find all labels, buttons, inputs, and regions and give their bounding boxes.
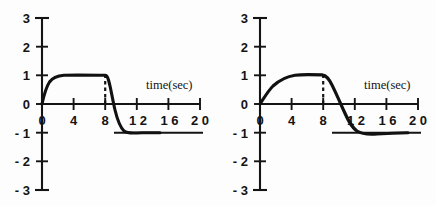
y-tick-label-neg3: - 3 bbox=[15, 183, 30, 198]
x-tick-label-12: 1 2 bbox=[129, 113, 147, 128]
x-tick-label-8: 8 bbox=[320, 113, 327, 128]
y-tick-label-neg2: - 2 bbox=[15, 154, 30, 169]
x-tick-label-20: 2 0 bbox=[191, 113, 209, 128]
figure-container: 3 2 1 0 - 1 - 2 - 3 0 4 8 1 2 1 6 2 bbox=[0, 0, 436, 206]
x-tick-label-8: 8 bbox=[102, 113, 109, 128]
chart-svg-right: 3 2 1 0 - 1 - 2 - 3 0 4 8 1 2 1 6 2 bbox=[218, 0, 436, 206]
chart-panel-right: 3 2 1 0 - 1 - 2 - 3 0 4 8 1 2 1 6 2 bbox=[218, 0, 436, 206]
y-tick-label-neg3: - 3 bbox=[233, 183, 248, 198]
x-tick-label-4: 4 bbox=[288, 113, 296, 128]
x-axis-title: time(sec) bbox=[146, 78, 193, 92]
chart-panel-left: 3 2 1 0 - 1 - 2 - 3 0 4 8 1 2 1 6 2 bbox=[0, 0, 218, 206]
y-tick-label-3: 3 bbox=[241, 11, 248, 26]
x-axis-group-left: 0 4 8 1 2 1 6 2 0 time(sec) bbox=[38, 78, 209, 128]
y-tick-label-2: 2 bbox=[241, 40, 248, 55]
chart-svg-left: 3 2 1 0 - 1 - 2 - 3 0 4 8 1 2 1 6 2 bbox=[0, 0, 218, 206]
x-tick-label-0: 0 bbox=[38, 113, 45, 128]
x-tick-label-4: 4 bbox=[70, 113, 78, 128]
y-tick-label-2: 2 bbox=[23, 40, 30, 55]
y-tick-label-neg1: - 1 bbox=[233, 126, 248, 141]
y-tick-label-0: 0 bbox=[23, 97, 30, 112]
y-tick-label-0: 0 bbox=[241, 97, 248, 112]
x-tick-label-16: 1 6 bbox=[378, 113, 396, 128]
y-tick-label-3: 3 bbox=[23, 11, 30, 26]
y-tick-label-neg2: - 2 bbox=[233, 154, 248, 169]
y-tick-label-neg1: - 1 bbox=[15, 126, 30, 141]
x-axis-title: time(sec) bbox=[364, 78, 411, 92]
y-tick-label-1: 1 bbox=[241, 68, 248, 83]
x-tick-label-0: 0 bbox=[256, 113, 263, 128]
y-tick-label-1: 1 bbox=[23, 68, 30, 83]
x-tick-label-16: 1 6 bbox=[160, 113, 178, 128]
x-tick-label-20: 2 0 bbox=[409, 113, 427, 128]
